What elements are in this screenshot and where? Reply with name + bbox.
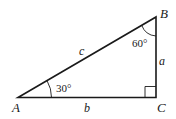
vertex-label-c: C (157, 100, 166, 115)
triangle-diagram: A B C a b c 30° 60° (0, 0, 176, 119)
angle-label-b: 60° (132, 37, 147, 49)
right-angle-marker (145, 87, 156, 98)
angle-arc-b (142, 25, 156, 36)
angle-label-a: 30° (56, 82, 71, 94)
side-label-c: c (79, 44, 85, 58)
vertex-label-a: A (11, 100, 20, 115)
angle-arc-a (47, 81, 52, 98)
triangle (18, 17, 156, 98)
vertex-label-b: B (160, 6, 168, 21)
side-label-b: b (84, 101, 90, 115)
side-label-a: a (159, 54, 165, 68)
